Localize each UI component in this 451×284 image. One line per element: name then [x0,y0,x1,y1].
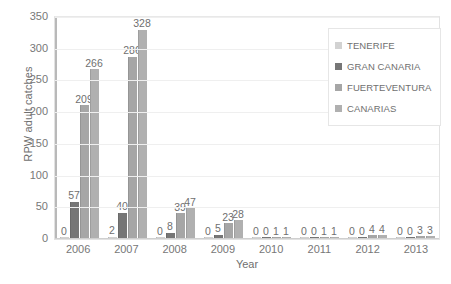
gridline [55,207,439,208]
bar-value-label: 0 [157,226,163,237]
bar-wrapper: 0 [60,17,69,238]
bar[interactable]: 0 [262,237,271,238]
bar-value-label: 4 [369,224,375,235]
bar[interactable]: 0 [156,237,165,238]
y-axis-tick-label: 100 [30,169,48,181]
bar[interactable]: 28 [234,220,243,238]
y-axis-tick-label: 300 [30,42,48,54]
bar-wrapper: 23 [224,17,233,238]
bar-wrapper: 57 [70,17,79,238]
bar-wrapper: 328 [138,17,147,238]
y-axis-tick-label: 350 [30,10,48,22]
bar[interactable]: 209 [80,105,89,238]
bar-value-label: 0 [61,226,67,237]
bar[interactable]: 39 [176,213,185,238]
bar-group: 052328 [199,17,247,238]
bar-wrapper: 8 [166,17,175,238]
bar[interactable]: 23 [224,223,233,238]
legend-item[interactable]: GRAN CANARIA [335,56,435,77]
bar[interactable]: 8 [166,233,175,238]
bar-wrapper: 39 [176,17,185,238]
x-axis-tick-label: 2010 [247,243,295,255]
legend-swatch-icon [335,105,342,112]
bar-wrapper: 0 [204,17,213,238]
bar[interactable]: 4 [368,235,377,238]
bar-wrapper: 1 [272,17,281,238]
bar-wrapper: 209 [80,17,89,238]
bar-value-label: 0 [397,226,403,237]
y-axis-tick-label: 0 [42,232,48,244]
bar[interactable]: 40 [118,213,127,238]
legend-item[interactable]: FUERTEVENTURA [335,77,435,98]
bar-value-label: 0 [263,226,269,237]
bar[interactable]: 286 [128,57,137,238]
bar[interactable]: 0 [60,237,69,238]
legend-swatch-icon [335,84,342,91]
bar[interactable]: 3 [416,236,425,238]
bar[interactable]: 2 [108,237,117,238]
y-axis-tick-label: 150 [30,137,48,149]
bar-value-label: 0 [349,226,355,237]
bar-value-label: 1 [283,226,289,237]
bar-group: 083947 [151,17,199,238]
x-axis-title: Year [54,258,440,270]
x-axis-tick-label: 2007 [102,243,150,255]
gridline [55,17,439,18]
bar-value-label: 28 [232,209,244,220]
y-axis-tick-label: 250 [30,73,48,85]
bar[interactable]: 47 [186,208,195,238]
bar[interactable]: 0 [406,237,415,238]
bar-value-label: 2 [109,225,115,236]
bar-wrapper: 0 [252,17,261,238]
bar[interactable]: 0 [204,237,213,238]
bar[interactable]: 0 [348,237,357,238]
bar[interactable]: 1 [330,237,339,238]
bar[interactable]: 0 [252,237,261,238]
bar-value-label: 57 [68,190,80,201]
bar[interactable]: 5 [214,235,223,238]
bar[interactable]: 0 [300,237,309,238]
bar-value-label: 3 [417,225,423,236]
bar-wrapper: 1 [282,17,291,238]
gridline [55,176,439,177]
y-axis-tick-labels: 050100150200250300350 [14,12,48,240]
bar[interactable]: 0 [396,237,405,238]
bar-value-label: 1 [321,226,327,237]
bar[interactable]: 4 [378,235,387,238]
bar[interactable]: 3 [426,236,435,238]
bar-group: 0011 [247,17,295,238]
legend-item[interactable]: TENERIFE [335,35,435,56]
bar[interactable]: 266 [90,69,99,238]
bar[interactable]: 1 [282,237,291,238]
bar-value-label: 47 [184,197,196,208]
bar[interactable]: 0 [358,237,367,238]
bar-group: 240286328 [103,17,151,238]
bar-value-label: 4 [379,224,385,235]
bar-value-label: 0 [253,226,259,237]
bar-value-label: 0 [311,226,317,237]
y-axis-tick-label: 200 [30,105,48,117]
bar-wrapper: 2 [108,17,117,238]
bar-value-label: 0 [359,226,365,237]
bar-wrapper: 47 [186,17,195,238]
bar-wrapper: 266 [90,17,99,238]
bar-wrapper: 0 [156,17,165,238]
legend-label: FUERTEVENTURA [347,82,432,93]
bar-value-label: 0 [301,226,307,237]
bar-wrapper: 28 [234,17,243,238]
x-axis-tick-label: 2012 [344,243,392,255]
bar[interactable]: 1 [272,237,281,238]
bar[interactable]: 0 [310,237,319,238]
x-axis-tick-label: 2008 [151,243,199,255]
legend-label: GRAN CANARIA [347,61,421,72]
legend-label: CANARIAS [347,103,396,114]
gridline [55,144,439,145]
legend-swatch-icon [335,63,342,70]
legend-item[interactable]: CANARIAS [335,98,435,119]
bar[interactable]: 1 [320,237,329,238]
bar-value-label: 1 [331,226,337,237]
bar-value-label: 266 [85,58,103,69]
bar-value-label: 0 [407,226,413,237]
bar-value-label: 328 [133,18,151,29]
bar-value-label: 3 [427,225,433,236]
